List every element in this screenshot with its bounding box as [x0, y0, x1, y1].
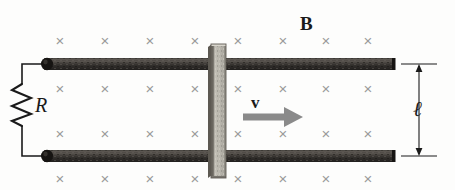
field-x-icon: ×: [322, 81, 331, 96]
resistor-label: R: [35, 95, 47, 115]
field-x-icon: ×: [234, 33, 243, 48]
field-x-icon: ×: [146, 171, 155, 186]
field-x-icon: ×: [279, 81, 288, 96]
field-x-icon: ×: [146, 33, 155, 48]
field-x-icon: ×: [191, 81, 200, 96]
field-x-icon: ×: [191, 33, 200, 48]
field-x-icon: ×: [234, 126, 243, 141]
field-x-icon: ×: [279, 126, 288, 141]
field-x-icon: ×: [322, 33, 331, 48]
field-x-icon: ×: [101, 33, 110, 48]
field-x-icon: ×: [191, 126, 200, 141]
field-x-icon: ×: [322, 171, 331, 186]
field-x-icon: ×: [191, 171, 200, 186]
resistor-symbol: [12, 84, 31, 126]
field-x-icon: ×: [322, 126, 331, 141]
physics-diagram-motional-emf: × × × × × × × × × × × × × × × × × × × × …: [0, 0, 455, 190]
field-x-icon: ×: [101, 126, 110, 141]
field-x-icon: ×: [56, 81, 65, 96]
field-x-icon: ×: [56, 126, 65, 141]
magnetic-field-label: B: [300, 14, 313, 33]
field-x-icon: ×: [234, 171, 243, 186]
field-x-icon: ×: [234, 81, 243, 96]
diagram-canvas: [0, 0, 455, 190]
field-x-icon: ×: [56, 33, 65, 48]
field-x-icon: ×: [364, 171, 373, 186]
field-x-icon: ×: [364, 126, 373, 141]
field-x-icon: ×: [146, 126, 155, 141]
field-x-icon: ×: [364, 81, 373, 96]
field-x-icon: ×: [279, 33, 288, 48]
field-x-icon: ×: [364, 33, 373, 48]
field-x-icon: ×: [146, 81, 155, 96]
sliding-bar: [208, 44, 226, 178]
length-label: ℓ: [413, 99, 422, 120]
velocity-label: v: [251, 94, 260, 111]
field-x-icon: ×: [101, 171, 110, 186]
field-x-icon: ×: [56, 171, 65, 186]
field-x-icon: ×: [279, 171, 288, 186]
field-x-icon: ×: [101, 81, 110, 96]
